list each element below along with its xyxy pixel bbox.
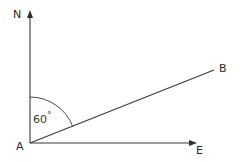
bearing-diagram-canvas: N B A E 60° [0, 0, 242, 162]
label-point-b: B [219, 63, 227, 74]
label-north: N [13, 9, 21, 20]
degree-symbol-icon: ° [47, 110, 52, 120]
bearing-diagram-svg [0, 0, 242, 162]
label-point-a: A [16, 141, 24, 152]
north-arrowhead-icon [27, 10, 33, 18]
label-angle-measure: 60° [33, 111, 52, 126]
label-east: E [196, 145, 203, 156]
angle-number: 60 [33, 113, 47, 126]
